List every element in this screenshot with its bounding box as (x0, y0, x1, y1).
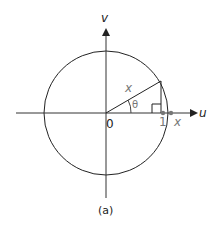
angle-arc (128, 100, 131, 113)
origin-label: 0 (106, 117, 114, 131)
radius-label: x (124, 81, 133, 95)
unit-tick-label: 1 (159, 115, 167, 129)
u-axis-label: u (199, 106, 207, 120)
x-tick-label: x (173, 115, 182, 129)
v-axis-label: v (101, 11, 109, 25)
right-angle-marker (152, 104, 161, 113)
angle-label: θ (132, 99, 138, 110)
x-point (169, 111, 173, 115)
unit-circle-diagram: v u 0 x θ 1 x (a) (0, 0, 218, 231)
caption: (a) (98, 204, 113, 217)
